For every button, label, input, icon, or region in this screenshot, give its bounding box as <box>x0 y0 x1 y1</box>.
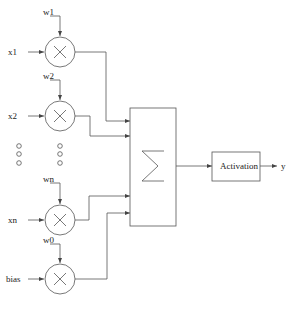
input-branch-2 <box>28 80 130 136</box>
sigma-icon <box>142 151 164 181</box>
activation-label: Activation <box>220 161 258 171</box>
input-label-2: x2 <box>8 111 17 121</box>
summation-box <box>130 108 176 226</box>
input-branch-1 <box>28 16 130 121</box>
input-label-bias: bias <box>6 274 21 284</box>
input-label-1: x1 <box>8 47 17 57</box>
output-label: y <box>281 161 286 171</box>
neuron-diagram: w1 x1 w2 x2 wn xn w0 bias Activation y <box>0 0 298 311</box>
weight-label-bias: w0 <box>43 235 54 245</box>
input-label-n: xn <box>8 215 18 225</box>
weight-label-2: w2 <box>43 71 54 81</box>
weight-label-n: wn <box>43 174 54 184</box>
weight-label-1: w1 <box>43 7 54 17</box>
input-branch-bias <box>28 213 130 294</box>
input-branch-n <box>28 183 130 235</box>
ellipsis-dots <box>17 144 63 166</box>
